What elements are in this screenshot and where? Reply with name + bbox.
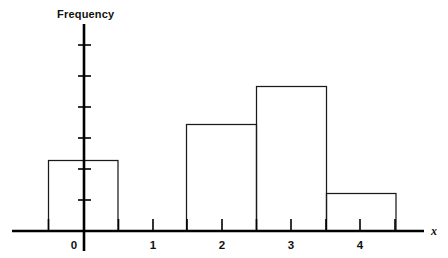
x-tick-label-4: 4 xyxy=(357,239,364,251)
histogram-figure: Frequency xyxy=(0,0,448,258)
y-axis xyxy=(78,24,91,251)
x-tick-label-0: 0 xyxy=(71,239,77,251)
x-axis-title: x xyxy=(430,224,437,238)
x-axis-tick-labels: 0 1 2 3 4 xyxy=(71,239,364,251)
x-tick-label-3: 3 xyxy=(288,239,294,251)
bar-bin-2 xyxy=(187,125,257,232)
y-axis-title: Frequency xyxy=(57,8,114,20)
x-tick-label-1: 1 xyxy=(150,239,157,251)
bar-bin-4 xyxy=(327,194,397,232)
histogram-canvas: 0 1 2 3 4 x xyxy=(0,0,448,258)
x-axis xyxy=(12,219,424,231)
x-tick-label-2: 2 xyxy=(219,239,225,251)
bar-bin-3 xyxy=(257,87,327,232)
histogram-bars xyxy=(49,87,397,232)
